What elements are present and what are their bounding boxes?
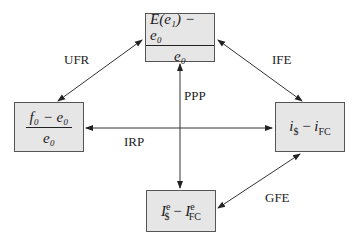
left-denominator: e₀ xyxy=(43,128,55,146)
right-expression: i$ − iFC xyxy=(289,118,331,137)
left-numerator: f₀ − e₀ xyxy=(26,109,73,128)
label-ppp: PPP xyxy=(184,88,206,104)
node-expected-change: E(e₁) − e₀ e₀ xyxy=(145,13,215,62)
ife-arrow xyxy=(218,40,302,101)
top-denominator: e₀ xyxy=(174,46,186,64)
node-forward-premium: f₀ − e₀ e₀ xyxy=(14,102,84,152)
node-interest-differential: i$ − iFC xyxy=(275,102,345,152)
node-inflation-differential: Ie$ − IeFC xyxy=(146,190,216,232)
top-numerator: E(e₁) − e₀ xyxy=(146,11,214,46)
label-ufr: UFR xyxy=(64,52,89,68)
bottom-expression: Ie$ − IeFC xyxy=(161,201,201,222)
label-gfe: GFE xyxy=(265,190,290,206)
ufr-arrow xyxy=(58,40,142,101)
label-ife: IFE xyxy=(272,52,292,68)
label-irp: IRP xyxy=(124,134,144,150)
